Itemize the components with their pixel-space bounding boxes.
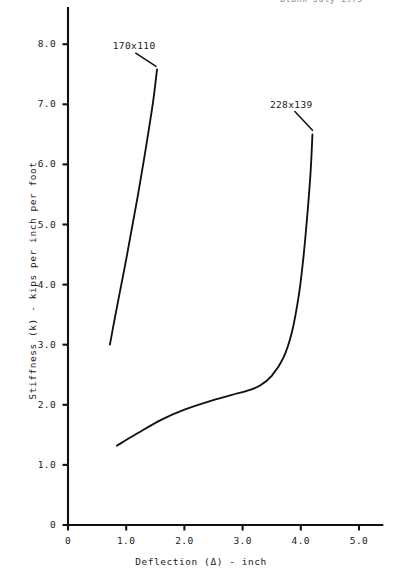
y-tick-label: 0	[16, 519, 56, 530]
y-axis-title: Stiffness (k) - kips per inch per foot	[27, 131, 38, 431]
curve-170x110	[110, 69, 157, 344]
tick-marks	[63, 44, 360, 530]
curve-228x139	[117, 134, 313, 445]
x-tick-label: 2.0	[164, 535, 204, 546]
curve-label-228x139: 228x139	[270, 99, 313, 110]
leader-line-228x139	[295, 112, 313, 131]
data-curves	[110, 53, 313, 445]
leader-line-170x110	[136, 53, 156, 66]
x-tick-label: 5.0	[339, 535, 379, 546]
x-axis-title: Deflection (Δ) - inch	[0, 556, 402, 567]
y-tick-label: 8.0	[16, 38, 56, 49]
plot-area	[0, 0, 402, 577]
curve-label-170x110: 170x110	[113, 40, 156, 51]
header-text-fragment: Blank July 1975	[280, 0, 398, 4]
axes	[68, 8, 382, 525]
y-tick-label: 7.0	[16, 98, 56, 109]
x-tick-label: 4.0	[281, 535, 321, 546]
x-tick-label: 3.0	[223, 535, 263, 546]
x-tick-label: 1.0	[106, 535, 146, 546]
chart-figure: Blank July 1975 01.02.03.04.05.06.07.08.…	[0, 0, 402, 577]
x-tick-label: 0	[48, 535, 88, 546]
y-tick-label: 1.0	[16, 459, 56, 470]
